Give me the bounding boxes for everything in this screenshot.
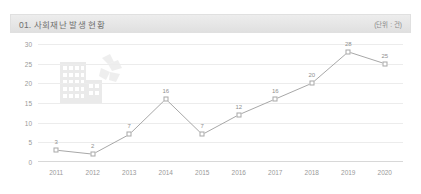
data-point-marker[interactable] <box>382 61 387 66</box>
x-axis-tick-label: 2020 <box>378 169 392 176</box>
data-point-label: 25 <box>381 53 388 59</box>
x-axis-tick-label: 2019 <box>341 169 355 176</box>
x-axis-tick-label: 2016 <box>232 169 246 176</box>
data-point-label: 12 <box>235 104 242 110</box>
x-axis-tick-label: 2013 <box>122 169 136 176</box>
data-point-marker[interactable] <box>163 97 168 102</box>
data-point-marker[interactable] <box>200 132 205 137</box>
data-point-label: 16 <box>162 88 169 94</box>
data-point-marker[interactable] <box>90 152 95 157</box>
data-point-marker[interactable] <box>346 49 351 54</box>
data-point-marker[interactable] <box>127 132 132 137</box>
data-point-marker[interactable] <box>309 81 314 86</box>
data-point-label: 28 <box>345 41 352 47</box>
y-axis-tick-label: 0 <box>28 159 32 166</box>
data-point-label: 16 <box>272 88 279 94</box>
data-point-marker[interactable] <box>54 148 59 153</box>
y-axis-tick-label: 5 <box>28 139 32 146</box>
chart-container: 051015202530 3271671216202825 2011201220… <box>10 38 411 188</box>
data-point-marker[interactable] <box>236 112 241 117</box>
y-axis-tick-label: 15 <box>25 100 32 107</box>
data-point-label: 7 <box>201 123 204 129</box>
y-axis-tick-label: 30 <box>25 41 32 48</box>
x-axis-tick-label: 2017 <box>268 169 282 176</box>
data-point-label: 3 <box>55 139 58 145</box>
data-point-marker[interactable] <box>273 97 278 102</box>
data-point-label: 7 <box>128 123 131 129</box>
x-axis-tick-label: 2011 <box>49 169 63 176</box>
page-title: 01. 사회재난 발생 현황 <box>19 18 105 30</box>
chart-page: 01. 사회재난 발생 현황 (단위 : 건) <box>0 0 421 194</box>
x-axis-tick-label: 2015 <box>195 169 209 176</box>
y-axis-tick-label: 10 <box>25 119 32 126</box>
unit-label: (단위 : 건) <box>374 19 402 29</box>
x-axis-tick-label: 2012 <box>86 169 100 176</box>
x-axis-tick-label: 2014 <box>159 169 173 176</box>
plot-area: 051015202530 3271671216202825 2011201220… <box>38 44 403 162</box>
chart-header-bar: 01. 사회재난 발생 현황 (단위 : 건) <box>10 14 411 33</box>
y-axis-tick-label: 20 <box>25 80 32 87</box>
data-point-label: 2 <box>91 143 94 149</box>
x-axis-tick-label: 2018 <box>305 169 319 176</box>
data-point-label: 20 <box>308 72 315 78</box>
y-axis-tick-label: 25 <box>25 60 32 67</box>
